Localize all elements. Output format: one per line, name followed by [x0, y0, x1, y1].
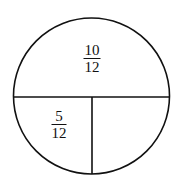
fraction-label-bottom-left: 5 12: [52, 110, 67, 140]
fraction-label-top: 10 12: [84, 44, 101, 74]
circle-diagram: [0, 0, 179, 185]
fraction-denominator: 12: [85, 59, 100, 74]
fraction-denominator: 12: [52, 125, 67, 140]
fraction-numerator: 5: [54, 110, 64, 124]
fraction-numerator: 10: [84, 44, 101, 58]
